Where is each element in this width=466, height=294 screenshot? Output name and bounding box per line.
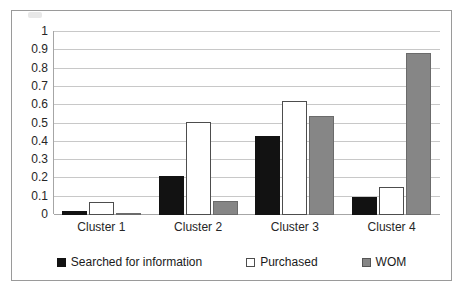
legend-label: WOM: [376, 256, 407, 268]
bars-layer: [53, 31, 440, 215]
bar-cluster: [53, 31, 150, 215]
legend-item[interactable]: WOM: [362, 256, 407, 268]
y-tick-label: 0.4: [14, 135, 48, 147]
legend-item[interactable]: Purchased: [246, 256, 317, 268]
chart-legend: Searched for informationPurchasedWOM: [12, 256, 451, 268]
x-tick-label-3: Cluster 3: [247, 221, 344, 233]
y-tick-label: 0.2: [14, 171, 48, 183]
legend-swatch-icon: [57, 258, 66, 267]
bar[interactable]: [89, 202, 114, 215]
y-tick-label: 0: [14, 208, 48, 220]
x-tick-label-2: Cluster 2: [150, 221, 247, 233]
x-axis-category-labels: Cluster 1Cluster 2Cluster 3Cluster 4: [53, 221, 440, 241]
bar[interactable]: [62, 211, 87, 215]
y-axis-tick-labels: 10.90.80.70.60.50.40.30.20.10: [12, 31, 48, 214]
legend-label: Searched for information: [71, 256, 202, 268]
y-tick-label: 1: [14, 25, 48, 37]
bar-cluster: [343, 31, 440, 215]
scan-artifact: [28, 12, 42, 18]
y-tick-label: 0.5: [14, 117, 48, 129]
bar[interactable]: [406, 53, 431, 215]
y-tick-label: 0.6: [14, 98, 48, 110]
bar[interactable]: [213, 201, 238, 215]
bar[interactable]: [186, 122, 211, 215]
legend-label: Purchased: [260, 256, 317, 268]
bar[interactable]: [309, 116, 334, 215]
y-tick-label: 0.1: [14, 190, 48, 202]
bar[interactable]: [379, 187, 404, 215]
bar[interactable]: [352, 197, 377, 215]
x-tick-label-4: Cluster 4: [343, 221, 440, 233]
bar-cluster: [150, 31, 247, 215]
legend-swatch-icon: [246, 258, 255, 267]
x-tick-label-1: Cluster 1: [53, 221, 150, 233]
bar[interactable]: [255, 136, 280, 215]
legend-swatch-icon: [362, 258, 371, 267]
y-tick-label: 0.7: [14, 80, 48, 92]
y-tick-label: 0.9: [14, 43, 48, 55]
y-tick-label: 0.3: [14, 153, 48, 165]
y-tick-label: 0.8: [14, 62, 48, 74]
chart-frame: 10.90.80.70.60.50.40.30.20.10 Cluster 1C…: [11, 10, 452, 281]
bar[interactable]: [116, 213, 141, 215]
legend-item[interactable]: Searched for information: [57, 256, 202, 268]
bar[interactable]: [282, 101, 307, 215]
bar-cluster: [247, 31, 344, 215]
bar[interactable]: [159, 176, 184, 215]
